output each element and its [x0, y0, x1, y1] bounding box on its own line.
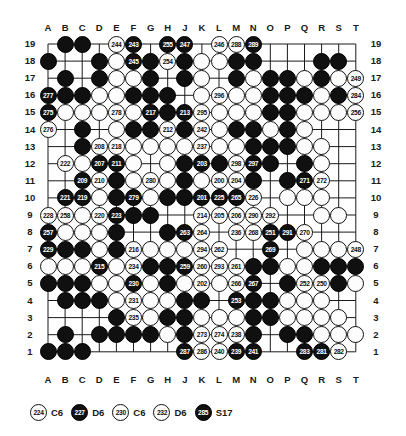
stone-E18[interactable]: [108, 53, 125, 70]
stone-P17[interactable]: [279, 70, 296, 87]
stone-M14[interactable]: [228, 121, 245, 138]
stone-move-274[interactable]: 274: [211, 326, 228, 343]
stone-Q4[interactable]: [296, 292, 313, 309]
stone-O6[interactable]: [262, 258, 279, 275]
stone-B19[interactable]: [57, 36, 74, 53]
stone-N3[interactable]: [245, 309, 262, 326]
stone-P6[interactable]: [279, 258, 296, 275]
stone-N17[interactable]: [245, 70, 262, 87]
stone-K17[interactable]: [193, 70, 210, 87]
stone-move-221[interactable]: 221: [57, 189, 74, 206]
stone-move-240[interactable]: 240: [211, 343, 228, 360]
stone-E7[interactable]: [108, 241, 125, 258]
stone-move-219[interactable]: 219: [74, 189, 91, 206]
stone-move-214[interactable]: 214: [193, 207, 210, 224]
stone-B5[interactable]: [57, 275, 74, 292]
stone-move-228[interactable]: 228: [40, 207, 57, 224]
stone-P14[interactable]: [279, 121, 296, 138]
stone-E5[interactable]: [108, 275, 125, 292]
stone-Q14[interactable]: [296, 121, 313, 138]
stone-move-222[interactable]: 222: [57, 155, 74, 172]
stone-C16[interactable]: [74, 87, 91, 104]
stone-Q7[interactable]: [296, 241, 313, 258]
stone-move-289[interactable]: 289: [245, 36, 262, 53]
stone-move-239[interactable]: 239: [228, 343, 245, 360]
stone-move-250[interactable]: 250: [313, 275, 330, 292]
stone-move-243[interactable]: 243: [125, 36, 142, 53]
stone-R9[interactable]: [313, 207, 330, 224]
stone-move-276[interactable]: 276: [40, 121, 57, 138]
stone-H8[interactable]: [159, 224, 176, 241]
stone-move-206[interactable]: 206: [228, 207, 245, 224]
stone-C6[interactable]: [74, 258, 91, 275]
stone-M18[interactable]: [228, 53, 245, 70]
stone-move-247[interactable]: 247: [176, 36, 193, 53]
stone-R15[interactable]: [313, 104, 330, 121]
stone-C13[interactable]: [74, 138, 91, 155]
stone-P3[interactable]: [279, 309, 296, 326]
stone-F14[interactable]: [125, 121, 142, 138]
stone-move-230[interactable]: 230: [125, 275, 142, 292]
stone-J7[interactable]: [176, 241, 193, 258]
stone-A5[interactable]: [40, 275, 57, 292]
stone-G5[interactable]: [142, 275, 159, 292]
stone-C1[interactable]: [74, 343, 91, 360]
stone-N6[interactable]: [245, 258, 262, 275]
stone-move-207[interactable]: 207: [91, 155, 108, 172]
stone-F16[interactable]: [125, 87, 142, 104]
stone-A18[interactable]: [40, 53, 57, 70]
stone-G4[interactable]: [142, 292, 159, 309]
stone-C8[interactable]: [74, 224, 91, 241]
stone-Q15[interactable]: [296, 104, 313, 121]
stone-N15[interactable]: [245, 104, 262, 121]
stone-move-225[interactable]: 225: [211, 189, 228, 206]
stone-R18[interactable]: [313, 53, 330, 70]
stone-move-246[interactable]: 246: [211, 36, 228, 53]
stone-move-270[interactable]: 270: [296, 224, 313, 241]
stone-H16[interactable]: [159, 87, 176, 104]
board-grid[interactable]: 2442432552472462882892452542492772962842…: [48, 44, 356, 368]
stone-P2[interactable]: [279, 326, 296, 343]
stone-move-266[interactable]: 266: [228, 275, 245, 292]
stone-move-262[interactable]: 262: [211, 241, 228, 258]
stone-move-210[interactable]: 210: [91, 172, 108, 189]
stone-M16[interactable]: [228, 87, 245, 104]
stone-S15[interactable]: [330, 104, 347, 121]
stone-M17[interactable]: [228, 70, 245, 87]
stone-move-218[interactable]: 218: [108, 138, 125, 155]
stone-A6[interactable]: [40, 258, 57, 275]
stone-move-234[interactable]: 234: [125, 258, 142, 275]
stone-C7[interactable]: [74, 241, 91, 258]
stone-move-229[interactable]: 229: [40, 241, 57, 258]
stone-B2[interactable]: [57, 326, 74, 343]
stone-N18[interactable]: [245, 53, 262, 70]
stone-S17[interactable]: [330, 70, 347, 87]
stone-Q16[interactable]: [296, 87, 313, 104]
stone-F15[interactable]: [125, 104, 142, 121]
stone-D2[interactable]: [91, 326, 108, 343]
stone-D4[interactable]: [91, 292, 108, 309]
stone-B1[interactable]: [57, 343, 74, 360]
stone-move-292[interactable]: 292: [262, 207, 279, 224]
stone-N16[interactable]: [245, 87, 262, 104]
stone-move-215[interactable]: 215: [91, 258, 108, 275]
stone-move-251[interactable]: 251: [262, 224, 279, 241]
stone-move-298[interactable]: 298: [228, 155, 245, 172]
stone-E14[interactable]: [108, 121, 125, 138]
stone-move-252[interactable]: 252: [296, 275, 313, 292]
stone-move-291[interactable]: 291: [279, 224, 296, 241]
stone-L18[interactable]: [211, 53, 228, 70]
stone-P16[interactable]: [279, 87, 296, 104]
stone-J17[interactable]: [176, 70, 193, 87]
stone-C14[interactable]: [74, 121, 91, 138]
stone-N11[interactable]: [245, 172, 262, 189]
stone-C15[interactable]: [74, 104, 91, 121]
stone-R16[interactable]: [313, 87, 330, 104]
stone-move-204[interactable]: 204: [228, 172, 245, 189]
stone-J18[interactable]: [176, 53, 193, 70]
stone-B4[interactable]: [57, 292, 74, 309]
stone-C19[interactable]: [74, 36, 91, 53]
stone-D16[interactable]: [91, 87, 108, 104]
stone-move-288[interactable]: 288: [228, 36, 245, 53]
stone-move-245[interactable]: 245: [125, 53, 142, 70]
